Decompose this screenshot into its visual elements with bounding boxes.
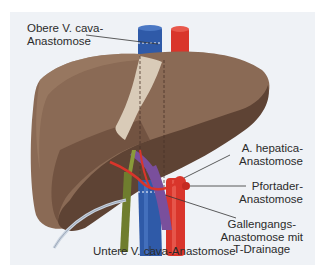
label-line: Obere V. cava-: [27, 22, 103, 35]
label-portal-vein-anastomosis: Pfortader- Anastomose: [239, 180, 303, 205]
label-line: A. hepatica-: [239, 142, 303, 155]
label-line: Gallengangs-: [221, 218, 303, 231]
label-line: Anastomose: [239, 193, 303, 206]
label-line: Anastomose mit: [221, 231, 303, 244]
label-line: Anastomose: [27, 35, 103, 48]
label-lower-vena-cava-anastomosis: Untere V. cava-Anastomose: [93, 245, 236, 258]
label-upper-vena-cava-anastomosis: Obere V. cava- Anastomose: [27, 22, 103, 47]
label-line: Pfortader-: [239, 180, 303, 193]
label-line: Anastomose: [239, 155, 303, 168]
label-hepatic-artery-anastomosis: A. hepatica- Anastomose: [239, 142, 303, 167]
